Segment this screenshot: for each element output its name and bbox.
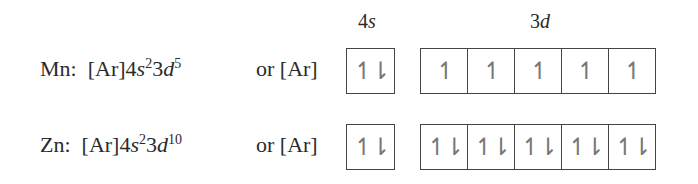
s-letter: s	[130, 132, 139, 157]
mn-formula: Mn: [Ar]4s23d5	[40, 56, 181, 82]
header-3d-letter: d	[540, 10, 550, 32]
orbital-box-3d: ↿	[514, 48, 562, 94]
header-4s: 4s	[358, 10, 376, 33]
orbital-box-3d: ↿⇂	[467, 124, 515, 170]
or-core-label: or [Ar]	[256, 56, 318, 82]
s-count: 2	[139, 132, 146, 147]
or-core-label: or [Ar]	[256, 132, 318, 158]
orbital-box-4s: ↿⇂	[346, 48, 395, 94]
element-symbol: Zn:	[40, 132, 71, 157]
d-letter: d	[157, 132, 168, 157]
orbital-box-3d: ↿	[608, 48, 656, 94]
orbital-group-3d: ↿⇂ ↿⇂ ↿⇂ ↿⇂ ↿⇂	[420, 124, 656, 170]
header-3d-num: 3	[530, 10, 540, 32]
s-shell: 4	[119, 132, 130, 157]
d-count: 10	[168, 132, 182, 147]
orbital-box-4s: ↿⇂	[346, 124, 395, 170]
noble-core: [Ar]	[88, 56, 126, 81]
zn-formula: Zn: [Ar]4s23d10	[40, 132, 182, 158]
noble-core: [Ar]	[82, 132, 120, 157]
header-4s-letter: s	[368, 10, 376, 32]
orbital-box-3d: ↿⇂	[561, 124, 609, 170]
orbital-box-3d: ↿	[467, 48, 515, 94]
d-shell: 3	[152, 56, 163, 81]
element-symbol: Mn:	[40, 56, 77, 81]
header-4s-num: 4	[358, 10, 368, 32]
orbital-group-3d: ↿ ↿ ↿ ↿ ↿	[420, 48, 656, 94]
orbital-box-3d: ↿⇂	[420, 124, 468, 170]
orbital-box-3d: ↿	[561, 48, 609, 94]
header-3d: 3d	[530, 10, 550, 33]
orbital-box-3d: ↿⇂	[514, 124, 562, 170]
d-letter: d	[163, 56, 174, 81]
row-mn: Mn: [Ar]4s23d5 or [Ar] ↿⇂ ↿ ↿ ↿ ↿ ↿	[0, 48, 698, 96]
d-count: 5	[174, 56, 181, 71]
d-shell: 3	[146, 132, 157, 157]
row-zn: Zn: [Ar]4s23d10 or [Ar] ↿⇂ ↿⇂ ↿⇂ ↿⇂ ↿⇂ ↿…	[0, 124, 698, 172]
s-shell: 4	[126, 56, 137, 81]
orbital-box-3d: ↿⇂	[608, 124, 656, 170]
orbital-box-3d: ↿	[420, 48, 468, 94]
s-letter: s	[137, 56, 146, 81]
